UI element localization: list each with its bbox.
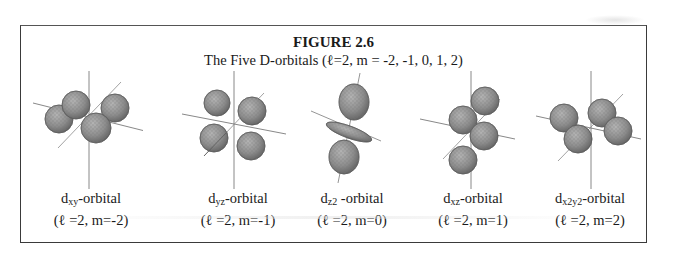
orbital-label-dx2y2: dx2y2-orbital (ℓ =2, m=2) xyxy=(515,189,665,230)
orbital-dxy-diagram xyxy=(23,71,143,189)
scan-smudge xyxy=(585,15,645,25)
figure-subtitle: The Five D-orbitals (ℓ=2, m = -2, -1, 0,… xyxy=(21,52,646,69)
orbital-params: (ℓ =2, m=-2) xyxy=(16,211,166,230)
orbital-dz2-diagram xyxy=(291,71,411,189)
figure-title: FIGURE 2.6 xyxy=(21,34,646,51)
orbital-dxz-diagram xyxy=(405,71,525,189)
scan-artifact xyxy=(61,216,606,219)
figure-frame: FIGURE 2.6 The Five D-orbitals (ℓ=2, m =… xyxy=(20,25,647,243)
orbital-dx2y2-diagram xyxy=(526,71,646,189)
lobe xyxy=(45,91,129,143)
orbital-dyz-diagram xyxy=(176,71,296,189)
orbital-label-dxy: dxy-orbital (ℓ =2, m=-2) xyxy=(16,189,166,230)
orbital-params: (ℓ =2, m=2) xyxy=(515,211,665,230)
